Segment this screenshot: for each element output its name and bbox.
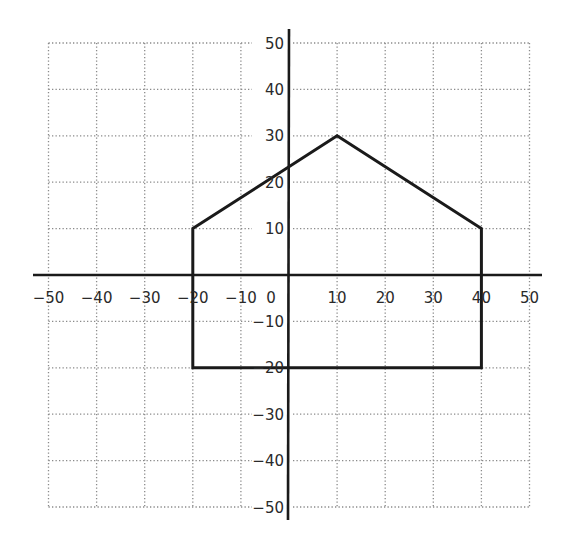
x-tick-label: 20 (376, 289, 395, 307)
x-tick-label: −10 (225, 289, 257, 307)
y-tick-label: 40 (265, 81, 284, 99)
y-tick-label: −10 (252, 313, 284, 331)
y-tick-label: 50 (265, 35, 284, 53)
y-axis (288, 29, 289, 520)
x-tick-labels: −50−40−30−20−1001020304050 (33, 289, 539, 307)
y-tick-label: −20 (252, 359, 284, 377)
x-tick-label: −20 (177, 289, 209, 307)
y-tick-label: −40 (252, 452, 284, 470)
y-tick-label: −50 (252, 499, 284, 517)
y-tick-label: −30 (252, 406, 284, 424)
coordinate-plane: −50−40−30−20−1001020304050 5040302010−10… (0, 0, 563, 543)
x-tick-label: −50 (33, 289, 65, 307)
x-tick-label: 40 (472, 289, 491, 307)
y-tick-label: 10 (265, 220, 284, 238)
x-tick-label: 50 (520, 289, 539, 307)
x-tick-label: 0 (266, 289, 276, 307)
axes (33, 29, 542, 520)
x-tick-label: −40 (81, 289, 113, 307)
y-tick-label: 30 (265, 127, 284, 145)
x-tick-label: −30 (129, 289, 161, 307)
x-tick-label: 10 (328, 289, 347, 307)
pentagon-shape (193, 136, 482, 368)
x-tick-label: 30 (424, 289, 443, 307)
y-tick-label: 20 (265, 174, 284, 192)
